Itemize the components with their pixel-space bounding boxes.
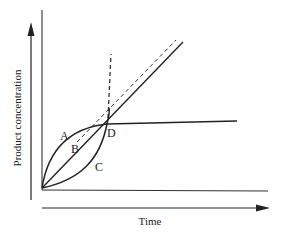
x-arrow xyxy=(42,205,270,212)
label-d: D xyxy=(107,126,116,140)
arrowhead-right-icon xyxy=(256,205,270,212)
line-b xyxy=(42,42,183,188)
arrowhead-up-icon xyxy=(28,22,35,36)
label-a: A xyxy=(60,129,69,143)
x-axis-label: Time xyxy=(139,215,162,227)
y-arrow xyxy=(28,22,35,200)
x-axis xyxy=(42,190,268,191)
label-b: B xyxy=(71,142,79,156)
product-concentration-diagram: A B C D Time Product concentration xyxy=(0,0,281,235)
label-c: C xyxy=(95,160,103,174)
y-axis-label: Product concentration xyxy=(11,69,23,166)
